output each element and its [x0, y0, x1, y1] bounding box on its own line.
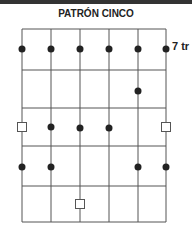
fret-position-label: 7 tr: [172, 40, 189, 52]
fretboard-diagram: [0, 0, 192, 237]
fretboard-grid: [22, 29, 166, 222]
root-squares: [18, 123, 171, 209]
